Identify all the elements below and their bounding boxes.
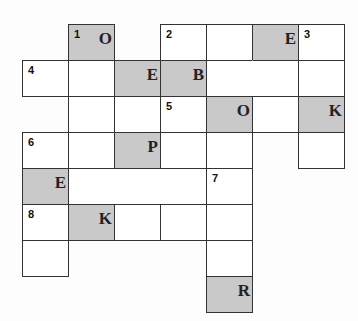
crossword-cell[interactable]: 3 <box>298 24 345 61</box>
crossword-cell[interactable] <box>252 96 299 133</box>
cell-letter: O <box>237 101 250 121</box>
crossword-cell[interactable]: K <box>68 204 115 241</box>
crossword-cell[interactable] <box>68 96 115 133</box>
crossword-cell[interactable] <box>206 60 253 97</box>
crossword-cell[interactable]: 8 <box>22 204 69 241</box>
cell-letter: K <box>329 101 342 121</box>
crossword-cell[interactable]: E <box>114 60 161 97</box>
cell-letter: K <box>99 209 112 229</box>
crossword-cell[interactable] <box>206 240 253 277</box>
crossword-cell[interactable]: 7 <box>206 168 253 205</box>
crossword-cell[interactable]: 1 O <box>68 24 115 61</box>
crossword-cell[interactable] <box>160 132 207 169</box>
crossword-cell[interactable] <box>206 204 253 241</box>
clue-number: 3 <box>304 28 310 40</box>
crossword-cell[interactable] <box>206 132 253 169</box>
crossword-cell[interactable] <box>298 60 345 97</box>
crossword-cell[interactable] <box>22 240 69 277</box>
cell-letter: E <box>285 29 296 49</box>
crossword-cell[interactable]: B <box>160 60 207 97</box>
crossword-cell[interactable]: E <box>252 24 299 61</box>
crossword-grid: 1 O 2 E 3 4 E B <box>0 0 358 321</box>
crossword-cell[interactable]: 4 <box>22 60 69 97</box>
crossword-cell[interactable] <box>160 204 207 241</box>
cell-letter: E <box>55 173 66 193</box>
crossword-cell[interactable]: R <box>206 276 253 313</box>
cell-letter: R <box>238 281 250 301</box>
crossword-cell[interactable] <box>298 132 345 169</box>
crossword-cell[interactable] <box>68 60 115 97</box>
clue-number: 1 <box>74 28 80 40</box>
crossword-cell[interactable] <box>114 96 161 133</box>
cell-letter: B <box>193 65 204 85</box>
clue-number: 8 <box>28 208 34 220</box>
cell-letter: E <box>147 65 158 85</box>
crossword-cell[interactable] <box>252 60 299 97</box>
clue-number: 2 <box>166 28 172 40</box>
crossword-cell[interactable]: 5 <box>160 96 207 133</box>
clue-number: 7 <box>212 172 218 184</box>
crossword-cell[interactable] <box>206 24 253 61</box>
crossword-cell[interactable]: 6 <box>22 132 69 169</box>
clue-number: 6 <box>28 136 34 148</box>
crossword-cell[interactable]: K <box>298 96 345 133</box>
crossword-span-blank <box>68 168 207 205</box>
clue-number: 4 <box>28 64 34 76</box>
clue-number: 5 <box>166 100 172 112</box>
crossword-cell[interactable]: 2 <box>160 24 207 61</box>
cell-letter: O <box>99 29 112 49</box>
crossword-cell[interactable]: E <box>22 168 69 205</box>
crossword-cell[interactable]: P <box>114 132 161 169</box>
crossword-cell[interactable] <box>114 204 161 241</box>
crossword-cell[interactable] <box>68 132 115 169</box>
cell-letter: P <box>148 137 158 157</box>
crossword-cell[interactable]: O <box>206 96 253 133</box>
